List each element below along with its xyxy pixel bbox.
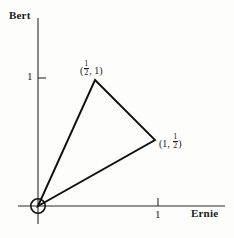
point-label-apex-fraction: 12 — [84, 60, 89, 77]
x-axis-tick-label-1: 1 — [155, 208, 161, 220]
y-axis-tick-label-1: 1 — [27, 70, 33, 82]
y-axis-label: Bert — [9, 9, 31, 21]
figure-container: Bert Ernie 1 1 (12, 1) (1, 12) — [0, 0, 234, 238]
feasible-set-triangle — [38, 80, 155, 206]
point-label-apex: (12, 1) — [80, 60, 102, 77]
x-axis-label: Ernie — [191, 207, 218, 219]
coordinate-plot — [0, 0, 234, 238]
point-label-apex-denominator: 2 — [84, 69, 89, 77]
point-label-right-fraction: 12 — [173, 133, 178, 150]
point-label-right-rest: ) — [178, 138, 181, 149]
point-label-right-denominator: 2 — [173, 142, 178, 150]
point-label-right: (1, 12) — [159, 133, 181, 150]
point-label-apex-rest: , 1) — [89, 65, 102, 76]
point-label-right-open: (1, — [159, 138, 172, 149]
